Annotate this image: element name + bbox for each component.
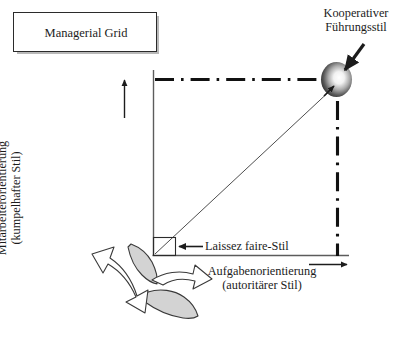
managerial-grid-figure: Managerial Grid [0,0,413,346]
swirl-band-lower [145,290,198,318]
diagonal-trend-line [155,87,334,254]
cooperative-style-pointer [345,44,364,70]
laissez-faire-label: Laissez faire-Stil [205,240,289,254]
cooperative-style-label: Kooperativer Führungsstil [302,7,410,35]
diagram-canvas [0,0,413,346]
x-axis-label: Aufgabenorientierung (autoritärer Stil) [182,265,342,293]
y-axis-label: Mitarbeiterorientierung (kumpelhafter St… [0,108,23,288]
